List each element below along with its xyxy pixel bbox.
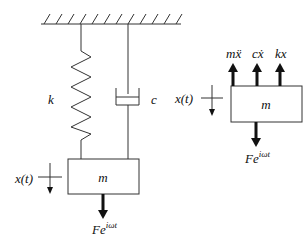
fbd-force-label: Feiωt [244,149,271,166]
fbd-displacement-label: x(t) [174,91,193,106]
damper-label: c [151,92,157,107]
mass-spring-damper-diagram: k c m x(t) Feiωt m mẍ cẋ kx x(t) [0,0,304,249]
spring-label: k [48,92,54,107]
fbd-inertia-force-label: mẍ [226,46,241,61]
fbd-force-arrow-icon [251,122,261,147]
fbd-displacement-arrow-icon [201,85,223,116]
fbd-damping-force-label: cẋ [252,46,264,61]
fbd-upward-force-arrows-icon [228,63,285,86]
fbd-spring-force-label: kx [275,46,287,61]
displacement-arrow-icon [38,163,62,194]
displacement-label: x(t) [14,171,33,186]
mass-label: m [98,170,107,185]
spring [71,24,91,159]
damper [116,24,139,159]
fbd-mass-label: m [261,97,270,112]
force-label: Feiωt [91,220,118,237]
force-arrow-icon [98,194,108,219]
fixed-support [41,14,182,24]
